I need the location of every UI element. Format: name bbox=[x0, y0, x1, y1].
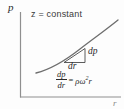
x-axis-label: r bbox=[113, 99, 117, 108]
slope-rise-label: dp bbox=[88, 47, 98, 57]
equation-right-hand-side: ρω2r bbox=[75, 75, 91, 85]
rotating-fluid-pressure-diagram: p r z = constant dp dr dp dr = ρω2r bbox=[0, 0, 124, 109]
equals-sign: = bbox=[69, 76, 74, 85]
pressure-vs-radius-curve bbox=[36, 20, 118, 73]
condition-annotation: z = constant bbox=[31, 10, 82, 19]
fraction-numerator: dp bbox=[56, 70, 67, 79]
y-axis-label: p bbox=[8, 2, 14, 13]
fraction-denominator: dr bbox=[56, 81, 66, 90]
derivative-fraction: dp dr bbox=[56, 70, 67, 90]
pressure-gradient-equation: dp dr = ρω2r bbox=[56, 70, 92, 90]
radius-symbol: r bbox=[88, 76, 91, 86]
